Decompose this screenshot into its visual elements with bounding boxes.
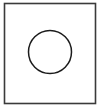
geometric-figure-canvas [0,0,100,108]
figure-background [0,0,100,108]
figure-container [0,0,100,108]
